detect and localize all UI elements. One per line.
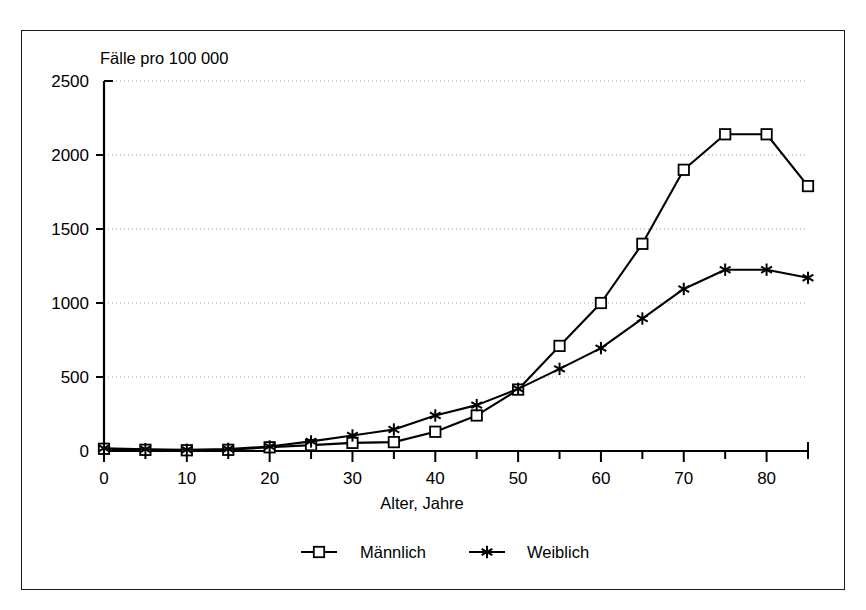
y-axis-tick-label: 500 [61, 368, 89, 387]
y-axis: 05001000150020002500 [51, 72, 113, 461]
series-weiblich [99, 264, 814, 457]
y-axis-tick-label: 2500 [51, 72, 89, 91]
data-point-marker [679, 165, 689, 175]
legend-label: Weiblich [527, 543, 589, 561]
x-axis-tick-label: 50 [509, 469, 528, 488]
data-point-marker [637, 312, 648, 324]
legend: MännlichWeiblich [301, 543, 589, 561]
legend-label: Männlich [360, 543, 426, 561]
x-axis-tick-label: 40 [426, 469, 445, 488]
y-axis-tick-label: 1500 [51, 220, 89, 239]
data-point-marker [472, 410, 482, 420]
legend-item-maennlich[interactable]: Männlich [301, 543, 426, 561]
series-line [104, 134, 808, 450]
chart-svg: 05001000150020002500 01020304050607080 F… [22, 31, 846, 591]
y-axis-tick-label: 2000 [51, 146, 89, 165]
data-point-marker [637, 239, 647, 249]
x-axis-tick-label: 0 [99, 469, 108, 488]
x-axis-tick-label: 20 [260, 469, 279, 488]
x-axis-tick-label: 60 [591, 469, 610, 488]
data-point-marker [803, 181, 813, 191]
x-axis-title: Alter, Jahre [380, 494, 463, 512]
data-point-marker [554, 363, 565, 375]
data-point-marker [430, 427, 440, 437]
data-point-marker [596, 342, 607, 354]
data-point-marker [761, 129, 771, 139]
x-axis-tick-label: 80 [757, 469, 776, 488]
y-axis-tick-label: 1000 [51, 294, 89, 313]
figure-page: 05001000150020002500 01020304050607080 F… [0, 0, 866, 610]
y-axis-tick-label: 0 [80, 442, 89, 461]
line-chart: 05001000150020002500 01020304050607080 F… [22, 31, 846, 591]
y-axis-unit-label: Fälle pro 100 000 [100, 49, 228, 67]
data-point-marker [720, 129, 730, 139]
series-maennlich [99, 129, 813, 455]
square-marker [314, 547, 324, 557]
data-point-marker [554, 341, 564, 351]
data-point-marker [678, 283, 689, 295]
x-axis-tick-label: 10 [177, 469, 196, 488]
legend-item-weiblich[interactable]: Weiblich [469, 543, 589, 561]
data-series-group [99, 129, 814, 456]
x-axis-tick-label: 70 [674, 469, 693, 488]
data-point-marker [596, 298, 606, 308]
figure-frame: 05001000150020002500 01020304050607080 F… [21, 30, 845, 590]
data-point-marker [389, 437, 399, 447]
gridlines [104, 81, 808, 377]
x-axis-tick-label: 30 [343, 469, 362, 488]
